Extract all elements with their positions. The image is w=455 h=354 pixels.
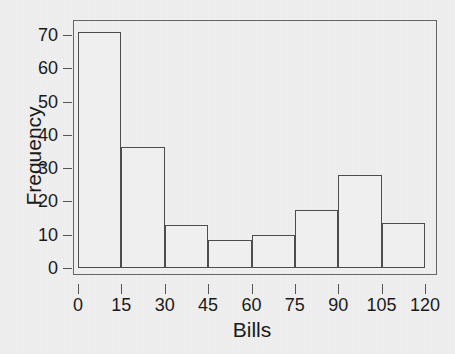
x-tick-mark [425,284,426,294]
x-tick-label: 30 [143,296,187,314]
x-tick-label: 120 [403,296,447,314]
plot-area-frame [73,20,437,275]
y-tick-label: 0 [24,259,58,277]
y-tick-mark [63,201,72,202]
x-tick-label: 90 [316,296,360,314]
y-tick-label: 20 [24,192,58,210]
x-tick-mark [78,284,79,294]
y-tick-label: 70 [24,26,58,44]
y-tick-mark [63,35,72,36]
y-tick-mark [63,168,72,169]
x-tick-mark [208,284,209,294]
x-tick-label: 105 [360,296,404,314]
x-tick-mark [165,284,166,294]
histogram-figure: Frequency 010203040506070 01530456075901… [0,0,455,354]
y-tick-mark [63,268,72,269]
x-tick-mark [295,284,296,294]
y-tick-mark [63,235,72,236]
y-tick-label: 60 [24,59,58,77]
x-tick-mark [121,284,122,294]
y-tick-mark [63,102,72,103]
x-axis-title: Bills [78,318,426,342]
x-tick-label: 45 [186,296,230,314]
y-tick-label: 40 [24,126,58,144]
x-tick-mark [382,284,383,294]
y-tick-label: 50 [24,93,58,111]
x-tick-mark [252,284,253,294]
y-tick-label: 10 [24,226,58,244]
y-tick-mark [63,135,72,136]
x-tick-label: 15 [99,296,143,314]
y-tick-mark [63,68,72,69]
y-tick-label: 30 [24,159,58,177]
x-tick-label: 60 [230,296,274,314]
x-tick-mark [338,284,339,294]
x-tick-label: 75 [273,296,317,314]
x-tick-label: 0 [56,296,100,314]
